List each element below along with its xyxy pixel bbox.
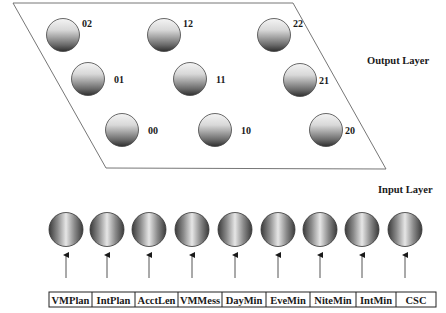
output-node: 11 bbox=[174, 63, 226, 96]
output-nodes: 021222011121001020 bbox=[47, 18, 356, 147]
output-node: 10 bbox=[199, 114, 252, 147]
input-node bbox=[132, 213, 166, 247]
input-layer-label: Input Layer bbox=[378, 184, 433, 195]
input-node bbox=[218, 213, 252, 247]
input-node bbox=[90, 213, 124, 247]
input-node bbox=[49, 213, 83, 247]
output-node-label: 10 bbox=[241, 125, 251, 136]
output-node: 21 bbox=[284, 64, 330, 97]
input-node bbox=[261, 213, 295, 247]
table-cell: IntPlan bbox=[97, 295, 131, 306]
output-node-label: 01 bbox=[114, 74, 124, 85]
output-node: 00 bbox=[106, 114, 159, 147]
table-cell: IntMin bbox=[360, 295, 392, 306]
input-node bbox=[303, 213, 337, 247]
table-cell: NiteMin bbox=[314, 295, 351, 306]
output-node-label: 21 bbox=[319, 75, 329, 86]
output-node: 02 bbox=[47, 18, 93, 52]
table-cell: DayMin bbox=[226, 295, 263, 306]
input-variable-table: VMPlanIntPlanAcctLenVMMessDayMinEveMinNi… bbox=[49, 292, 436, 307]
output-node-circle bbox=[174, 63, 207, 96]
output-node: 22 bbox=[258, 18, 304, 52]
output-node-label: 12 bbox=[183, 18, 193, 29]
output-node-circle bbox=[72, 63, 105, 96]
output-node: 01 bbox=[72, 63, 125, 96]
output-node: 12 bbox=[148, 18, 194, 52]
output-node-label: 20 bbox=[345, 125, 355, 136]
output-node-circle bbox=[258, 19, 291, 52]
output-node-label: 02 bbox=[82, 18, 92, 29]
output-node-label: 11 bbox=[216, 74, 225, 85]
output-node-circle bbox=[148, 19, 181, 52]
input-arrows bbox=[66, 255, 405, 278]
table-cell: AcctLen bbox=[138, 295, 176, 306]
output-node-circle bbox=[106, 114, 139, 147]
input-node bbox=[175, 213, 209, 247]
input-nodes bbox=[49, 213, 422, 247]
output-node-circle bbox=[310, 114, 343, 147]
output-node-circle bbox=[284, 64, 317, 97]
input-node bbox=[388, 213, 422, 247]
output-node-label: 00 bbox=[148, 125, 158, 136]
output-node: 20 bbox=[310, 114, 356, 147]
output-node-label: 22 bbox=[293, 18, 303, 29]
input-node bbox=[345, 213, 379, 247]
output-node-circle bbox=[199, 114, 232, 147]
som-network-diagram: 021222011121001020 Output Layer Input La… bbox=[0, 0, 446, 313]
table-cell: VMPlan bbox=[52, 295, 90, 306]
table-cell: CSC bbox=[405, 295, 426, 306]
table-cell: EveMin bbox=[270, 295, 306, 306]
output-layer-label: Output Layer bbox=[367, 55, 429, 66]
output-node-circle bbox=[47, 19, 80, 52]
table-cell: VMMess bbox=[180, 295, 220, 306]
